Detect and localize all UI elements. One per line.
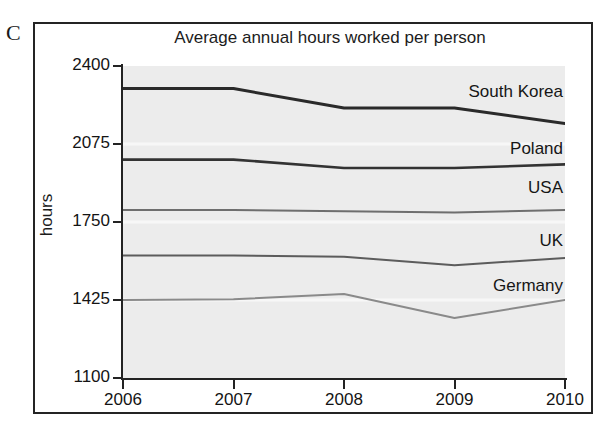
y-tick-label: 1750 (40, 211, 110, 231)
y-tick-label: 2400 (40, 55, 110, 75)
x-tick-label: 2008 (309, 390, 379, 410)
chart-title: Average annual hours worked per person (120, 28, 540, 48)
series-line-uk (123, 256, 565, 266)
series-line-usa (123, 210, 565, 212)
x-tick-label: 2009 (420, 390, 490, 410)
x-tick-label: 2010 (530, 390, 600, 410)
series-line-poland (123, 160, 565, 168)
figure-panel: C Average annual hours worked per person… (0, 0, 603, 432)
x-tick-mark (564, 380, 566, 389)
y-tick-label: 2075 (40, 133, 110, 153)
y-tick-mark (113, 143, 121, 145)
y-tick-mark (113, 377, 121, 379)
y-tick-mark (113, 221, 121, 223)
y-tick-mark (113, 65, 121, 67)
series-label-uk: UK (473, 231, 563, 251)
x-tick-mark (122, 380, 124, 389)
plot-svg (123, 66, 565, 378)
plot-area (123, 66, 565, 378)
x-tick-mark (454, 380, 456, 389)
x-tick-mark (343, 380, 345, 389)
series-label-usa: USA (453, 178, 563, 198)
y-tick-label: 1100 (40, 367, 110, 387)
panel-letter: C (6, 22, 21, 44)
series-label-poland: Poland (423, 139, 563, 159)
x-tick-label: 2007 (199, 390, 269, 410)
series-label-south-korea: South Korea (423, 82, 563, 102)
x-tick-label: 2006 (88, 390, 158, 410)
y-tick-label: 1425 (40, 289, 110, 309)
series-label-germany: Germany (411, 276, 563, 296)
y-axis-line (121, 64, 123, 380)
series-line-germany (123, 294, 565, 318)
y-tick-mark (113, 299, 121, 301)
x-tick-mark (233, 380, 235, 389)
